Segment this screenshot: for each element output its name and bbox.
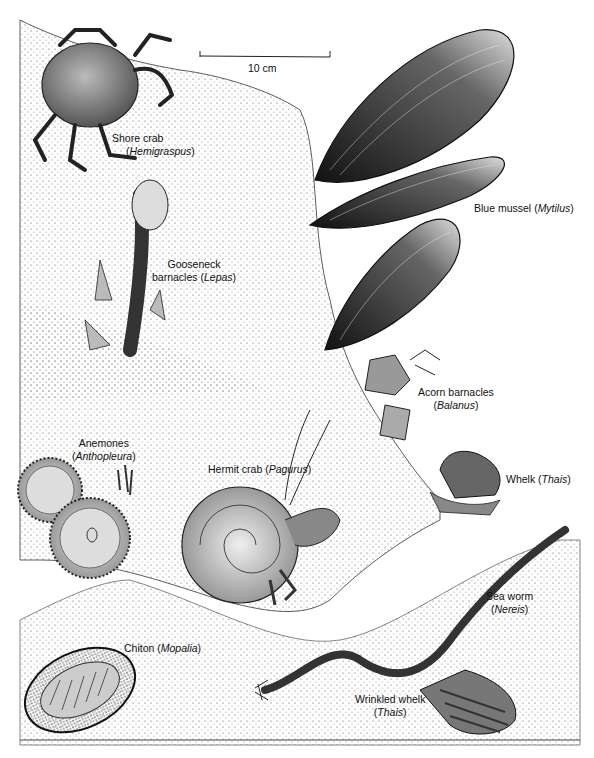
common-name: Chiton <box>124 642 154 654</box>
common-name: Hermit crab <box>208 463 262 475</box>
common-name: Acorn barnacles <box>418 386 494 399</box>
genus-name: Thais <box>542 473 568 485</box>
common-name: Shore crab <box>112 132 195 145</box>
label-sea-worm: Sea worm (Nereis) <box>486 590 533 616</box>
label-hermit-crab: Hermit crab (Pagurus) <box>208 463 311 476</box>
label-anemones: Anemones (Anthopleura) <box>72 437 136 463</box>
label-acorn-barnacles: Acorn barnacles (Balanus) <box>418 386 494 412</box>
label-wrinkled-whelk: Wrinkled whelk (Thais) <box>355 693 425 719</box>
label-chiton: Chiton (Mopalia) <box>124 642 201 655</box>
label-blue-mussel: Blue mussel (Mytilus) <box>474 202 574 215</box>
scale-bar <box>200 51 330 57</box>
common-name: Anemones <box>72 437 136 450</box>
whelk-drawing <box>430 451 500 515</box>
common-name: Whelk <box>506 473 535 485</box>
intertidal-illustration: 10 cm Shore crab (Hemigraspus) Gooseneck… <box>0 0 594 758</box>
scale-bar-label: 10 cm <box>248 62 277 74</box>
rock-substrate <box>20 20 580 745</box>
genus-name: Thais <box>377 706 403 718</box>
common-name: Gooseneck <box>152 258 236 271</box>
genus-name: Anthopleura <box>76 450 133 462</box>
genus-name: Lepas <box>204 271 233 283</box>
genus-name: Nereis <box>494 603 524 615</box>
genus-name: Hemigraspus <box>130 145 192 157</box>
label-shore-crab: Shore crab (Hemigraspus) <box>112 132 195 158</box>
label-whelk: Whelk (Thais) <box>506 473 571 486</box>
illustration-artwork <box>0 0 594 758</box>
blue-mussel-drawing <box>310 30 514 350</box>
label-gooseneck-barnacles: Gooseneck barnacles (Lepas) <box>152 258 236 284</box>
common-name: Sea worm <box>486 590 533 603</box>
common-name: Wrinkled whelk <box>355 693 425 706</box>
genus-name: Mytilus <box>538 202 571 214</box>
genus-name: Balanus <box>437 399 475 411</box>
genus-name: Pagurus <box>269 463 308 475</box>
genus-name: Mopalia <box>161 642 198 654</box>
common-name: Blue mussel <box>474 202 531 214</box>
